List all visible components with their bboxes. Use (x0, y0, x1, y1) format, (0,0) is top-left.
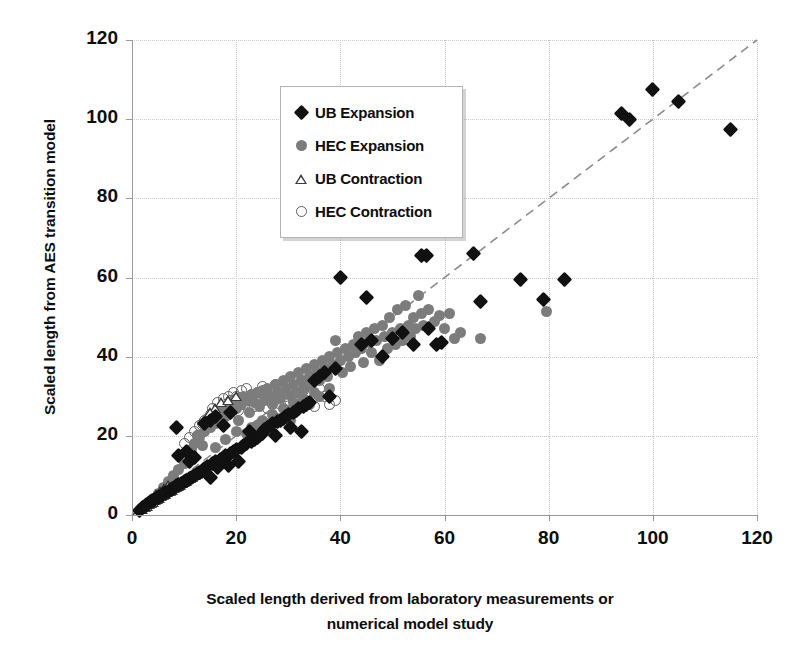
y-tick-label: 60 (54, 265, 118, 287)
legend-marker-icon (293, 205, 310, 219)
plot-area: 020406080100120020406080100120 UB Expans… (132, 40, 757, 515)
x-axis-title: Scaled length derived from laboratory me… (90, 586, 730, 636)
x-tick-label: 80 (519, 527, 579, 549)
legend-item[interactable]: UB Expansion (293, 96, 462, 129)
x-axis-title-line1: Scaled length derived from laboratory me… (206, 590, 613, 607)
x-tick (757, 515, 758, 521)
y-tick (126, 436, 132, 437)
x-tick (549, 515, 550, 521)
legend-item[interactable]: UB Contraction (293, 162, 462, 195)
y-tick-label: 120 (54, 27, 118, 49)
gridline-vertical (757, 40, 758, 515)
chart-legend: UB ExpansionHEC ExpansionUB ContractionH… (280, 86, 463, 238)
y-tick-label: 20 (54, 423, 118, 445)
legend-item[interactable]: HEC Expansion (293, 129, 462, 162)
y-tick-label: 0 (54, 502, 118, 524)
y-axis-line (132, 40, 133, 515)
x-tick-label: 20 (206, 527, 266, 549)
y-tick (126, 515, 132, 516)
y-tick-label: 40 (54, 344, 118, 366)
x-tick-label: 0 (102, 527, 162, 549)
y-tick (126, 357, 132, 358)
marker-glyph (296, 206, 307, 217)
x-tick (132, 515, 133, 521)
x-tick (653, 515, 654, 521)
x-tick (445, 515, 446, 521)
legend-marker-icon (293, 172, 310, 186)
legend-item-label: UB Contraction (315, 170, 422, 187)
y-tick (126, 198, 132, 199)
scatter-chart-figure: Scaled length from AES transition model … (0, 0, 810, 656)
marker-glyph (295, 174, 307, 184)
x-tick-label: 100 (623, 527, 683, 549)
x-tick (340, 515, 341, 521)
x-axis-title-line2: numerical model study (90, 611, 730, 636)
y-tick (126, 278, 132, 279)
x-tick (236, 515, 237, 521)
legend-marker-icon (293, 106, 310, 120)
legend-item-label: HEC Expansion (315, 137, 424, 154)
x-tick-label: 60 (415, 527, 475, 549)
legend-item-label: UB Expansion (315, 104, 414, 121)
marker-glyph (293, 105, 309, 121)
y-tick-label: 80 (54, 185, 118, 207)
y-tick (126, 40, 132, 41)
legend-item-label: HEC Contraction (315, 203, 432, 220)
marker-glyph (296, 140, 307, 151)
x-tick-label: 40 (310, 527, 370, 549)
x-tick-label: 120 (727, 527, 787, 549)
y-tick (126, 119, 132, 120)
legend-marker-icon (293, 139, 310, 153)
y-tick-label: 100 (54, 106, 118, 128)
legend-item[interactable]: HEC Contraction (293, 195, 462, 228)
